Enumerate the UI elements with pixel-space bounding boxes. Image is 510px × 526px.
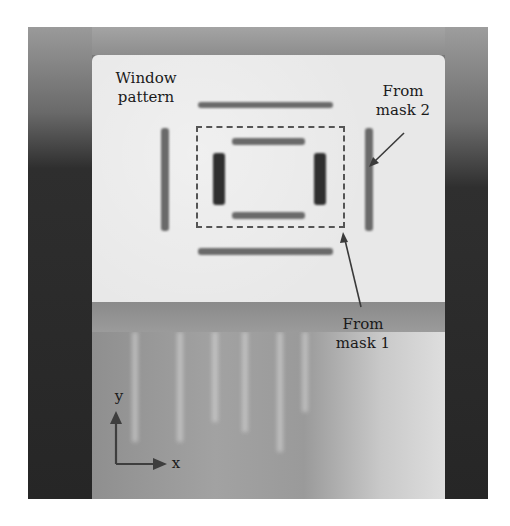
label-line: mask 2	[368, 101, 438, 120]
window-pattern-label: Window pattern	[104, 69, 188, 107]
right-dark-band	[445, 27, 488, 499]
texture-streak	[212, 332, 218, 422]
label-line: pattern	[104, 88, 188, 107]
texture-streak	[132, 332, 138, 442]
from-mask2-label: From mask 2	[368, 82, 438, 120]
mask2-bottom-bar	[198, 248, 333, 255]
label-line: From	[328, 315, 398, 334]
y-axis-label: y	[112, 387, 126, 406]
texture-streak	[277, 332, 283, 452]
texture-streak	[302, 332, 308, 412]
mask1-left-bar	[213, 153, 225, 205]
mask1-right-bar	[314, 153, 326, 205]
mask2-left-bar	[161, 128, 169, 231]
mask2-top-bar	[198, 102, 333, 108]
left-dark-band	[28, 27, 92, 499]
from-mask1-label: From mask 1	[328, 315, 398, 353]
mask1-top-bar	[232, 138, 305, 145]
x-axis-label: x	[169, 454, 183, 473]
mask1-bottom-bar	[232, 212, 305, 219]
label-line: Window	[104, 69, 188, 88]
texture-streak	[242, 332, 248, 432]
top-gray-band	[28, 27, 488, 55]
mask2-right-bar	[365, 128, 373, 231]
label-line: mask 1	[328, 334, 398, 353]
texture-streak	[177, 332, 183, 442]
label-line: From	[368, 82, 438, 101]
